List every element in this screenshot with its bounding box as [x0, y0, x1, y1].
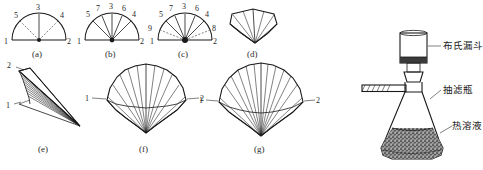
panel-a-label-2: 2 — [67, 37, 71, 46]
panel-b-label-2: 2 — [140, 37, 144, 46]
funnel-perforated-plate — [400, 57, 427, 63]
panel-b-label-6: 6 — [122, 4, 126, 13]
panel-e-label-1: 1 — [6, 101, 10, 110]
panel-c-label-8: 8 — [212, 24, 216, 33]
panel-b-label-1: 1 — [77, 37, 81, 46]
panel-c-label-2: 2 — [213, 37, 217, 46]
panel-c-label-4: 4 — [205, 10, 209, 19]
panel-c-label-5: 5 — [159, 10, 163, 19]
panel-e-label-2: 2 — [7, 61, 11, 70]
callout-label-flask: 抽滤瓶 — [443, 84, 473, 95]
panel-c-label-7: 7 — [169, 4, 173, 13]
panel-a-label-3: 3 — [36, 3, 40, 12]
panel-e-caption: (e) — [38, 144, 48, 154]
panel-c-label-3: 3 — [182, 2, 186, 11]
panel-f-caption: (f) — [139, 144, 148, 154]
panel-c-caption: (c) — [178, 49, 188, 59]
panel-a-label-5: 5 — [14, 11, 18, 20]
panel-b-label-4: 4 — [132, 10, 136, 19]
panel-a-label-4: 4 — [60, 11, 64, 20]
panel-c-label-1: 1 — [150, 37, 154, 46]
panel-b-label-7: 7 — [96, 4, 100, 13]
panel-c-label-6: 6 — [195, 4, 199, 13]
panel-b-label-3: 3 — [109, 2, 113, 11]
panel-b-label-5: 5 — [86, 10, 90, 19]
panel-g-label-2: 2 — [316, 96, 320, 105]
callout-label-solution: 热溶液 — [452, 120, 482, 131]
panel-d-caption: (d) — [247, 49, 258, 59]
figure-root: 1 5 3 4 2 (a) 1 5 7 3 6 4 2 (b) — [0, 0, 483, 170]
panel-b-center-dot — [110, 38, 115, 43]
panel-c-label-9: 9 — [148, 24, 152, 33]
panel-c-center-dot — [182, 37, 188, 43]
panel-a-center-dot — [37, 38, 41, 42]
panel-a-caption: (a) — [32, 49, 42, 59]
panel-a-label-1: 1 — [4, 37, 8, 46]
panel-b-caption: (b) — [105, 49, 116, 59]
panel-g-caption: (g) — [254, 144, 265, 154]
callout-label-funnel: 布氏漏斗 — [443, 40, 483, 51]
panel-f-label-1: 1 — [85, 94, 89, 103]
figure-canvas: 1 5 3 4 2 (a) 1 5 7 3 6 4 2 (b) — [0, 0, 483, 170]
panel-g-label-1: 1 — [199, 96, 203, 105]
